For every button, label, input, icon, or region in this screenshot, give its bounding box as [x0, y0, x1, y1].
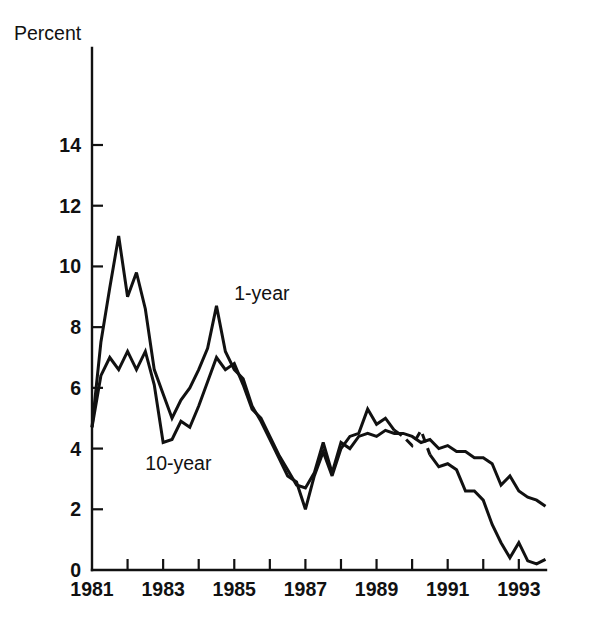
series-annotation-10-year: 10-year	[145, 452, 212, 474]
y-tick-label-12: 12	[59, 195, 81, 217]
axis-group	[92, 48, 546, 570]
x-tick-label-group: 1981198319851987198919911993	[70, 578, 540, 600]
chart-figure: 02468101214 1981198319851987198919911993…	[0, 0, 595, 639]
line-chart: 02468101214 1981198319851987198919911993…	[0, 0, 595, 639]
series-line-10-year	[92, 351, 546, 506]
x-tick-label-1989: 1989	[355, 578, 399, 600]
series-line-1-year-left	[92, 236, 394, 509]
x-tick-label-1983: 1983	[141, 578, 185, 600]
series-line-1-year-dashed	[394, 430, 430, 454]
y-tick-label-14: 14	[59, 134, 81, 156]
series-annotation-1-year: 1-year	[234, 282, 290, 304]
y-tick-label-group: 02468101214	[59, 134, 81, 581]
x-tick-label-1981: 1981	[70, 578, 114, 600]
series-line-1-year-right	[430, 455, 546, 564]
x-tick-label-1987: 1987	[284, 578, 327, 600]
y-tick-label-6: 6	[70, 377, 81, 399]
y-tick-label-8: 8	[70, 316, 81, 338]
y-tick-label-10: 10	[59, 255, 81, 277]
x-tick-label-1993: 1993	[497, 578, 541, 600]
y-axis-title: Percent	[14, 22, 82, 44]
y-tick-label-4: 4	[70, 438, 81, 460]
y-tick-group	[92, 145, 103, 509]
y-tick-label-2: 2	[70, 498, 81, 520]
x-tick-label-1991: 1991	[426, 578, 470, 600]
x-tick-group	[128, 559, 519, 570]
x-tick-label-1985: 1985	[213, 578, 257, 600]
